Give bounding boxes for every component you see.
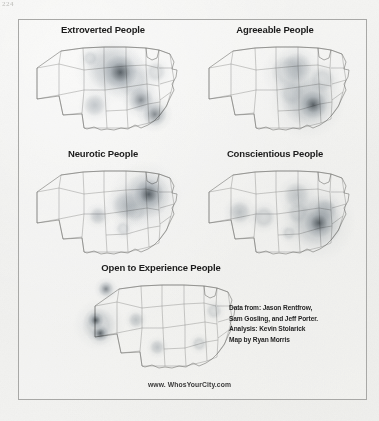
map-panel-extroverted: Extroverted People (28, 24, 178, 133)
map-panel-open-to-experience: Open to Experience People (86, 262, 236, 371)
credit-data-source-line2: Sam Gosling, and Jeff Porter. (229, 314, 361, 325)
map-panel-agreeable: Agreeable People (200, 24, 350, 133)
map-panel-neurotic: Neurotic People (28, 148, 178, 257)
map-conscientious (200, 164, 350, 257)
map-title-open-to-experience: Open to Experience People (86, 262, 236, 273)
map-neurotic (28, 164, 178, 257)
credit-analysis: Analysis: Kevin Stolarick (229, 324, 361, 335)
map-agreeable (200, 40, 350, 133)
credits-block: Data from: Jason Rentfrow, Sam Gosling, … (229, 303, 361, 345)
map-title-conscientious: Conscientious People (200, 148, 350, 159)
map-title-neurotic: Neurotic People (28, 148, 178, 159)
map-title-agreeable: Agreeable People (200, 24, 350, 35)
page-number: 224 (2, 0, 14, 8)
map-extroverted (28, 40, 178, 133)
page-background: 224 Extroverted People Agreeable People (0, 0, 379, 421)
footer-url: www. WhosYourCity.com (0, 381, 379, 388)
credit-cartographer: Map by Ryan Morris (229, 335, 361, 346)
map-open-to-experience (86, 278, 236, 371)
map-panel-conscientious: Conscientious People (200, 148, 350, 257)
map-title-extroverted: Extroverted People (28, 24, 178, 35)
credit-data-source-line1: Data from: Jason Rentfrow, (229, 303, 361, 314)
